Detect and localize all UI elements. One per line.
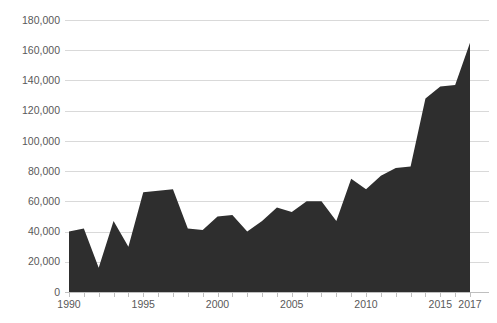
- x-axis-tickmarks: [70, 293, 471, 297]
- x-tick-label: 1990: [57, 298, 81, 310]
- x-tick-label: 2017: [458, 298, 482, 310]
- y-tick-label: 180,000: [22, 14, 60, 26]
- area-chart: 020,00040,00060,00080,000100,000120,0001…: [0, 0, 497, 323]
- x-tick-label: 2000: [206, 298, 230, 310]
- x-tick-label: 1995: [132, 298, 156, 310]
- y-tick-label: 100,000: [22, 135, 60, 147]
- y-tick-label: 0: [54, 286, 60, 298]
- y-tick-label: 80,000: [28, 165, 60, 177]
- x-tick-label: 2015: [429, 298, 453, 310]
- y-tick-label: 160,000: [22, 44, 60, 56]
- y-tick-label: 20,000: [28, 255, 60, 267]
- y-tick-label: 60,000: [28, 195, 60, 207]
- chart-canvas: 020,00040,00060,00080,000100,000120,0001…: [0, 0, 497, 323]
- y-tick-label: 140,000: [22, 74, 60, 86]
- x-tick-label: 2005: [280, 298, 304, 310]
- y-axis-tick-labels: 020,00040,00060,00080,000100,000120,0001…: [22, 14, 69, 298]
- y-tick-label: 120,000: [22, 104, 60, 116]
- x-axis-tick-labels: 1990199520002005201020152017: [57, 298, 482, 310]
- x-tick-label: 2010: [354, 298, 378, 310]
- y-tick-label: 40,000: [28, 225, 60, 237]
